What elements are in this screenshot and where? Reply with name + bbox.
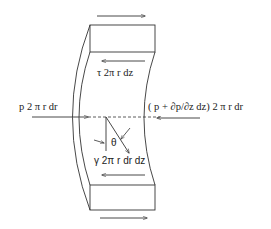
diagram-canvas [0, 0, 271, 229]
right-pressure-label: ( p + ∂p/∂z dz) 2 π r dr [148, 102, 243, 113]
weight-arrow [106, 117, 129, 153]
shear-force-label: τ 2π r dz [97, 68, 133, 79]
bottom-end-block [90, 185, 155, 210]
right-wall [144, 52, 155, 185]
left-inner-wall [79, 52, 90, 185]
left-pressure-label: p 2 π r dr [19, 102, 58, 113]
top-end-block [90, 25, 155, 52]
angle-arrow-left [94, 140, 104, 143]
left-outer-wall [73, 25, 91, 210]
angle-arrow-right [121, 128, 130, 139]
angle-label: θ [111, 138, 117, 148]
weight-label: γ 2π r dr dz [94, 156, 145, 166]
